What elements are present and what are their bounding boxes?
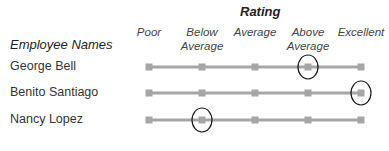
scale-marker [146,90,153,97]
scale-marker [146,64,153,71]
scale-marker [358,117,365,124]
scale-marker [199,117,206,124]
scale-marker [305,90,312,97]
scale-marker [305,117,312,124]
scale-marker [252,117,259,124]
scale-marker [199,90,206,97]
scale-marker [358,90,365,97]
scale-marker [146,117,153,124]
scale-marker [252,64,259,71]
scale-marker [305,64,312,71]
scale-marker [358,64,365,71]
scale-marker [252,90,259,97]
rating-scale-plot [0,0,389,151]
scale-marker [199,64,206,71]
